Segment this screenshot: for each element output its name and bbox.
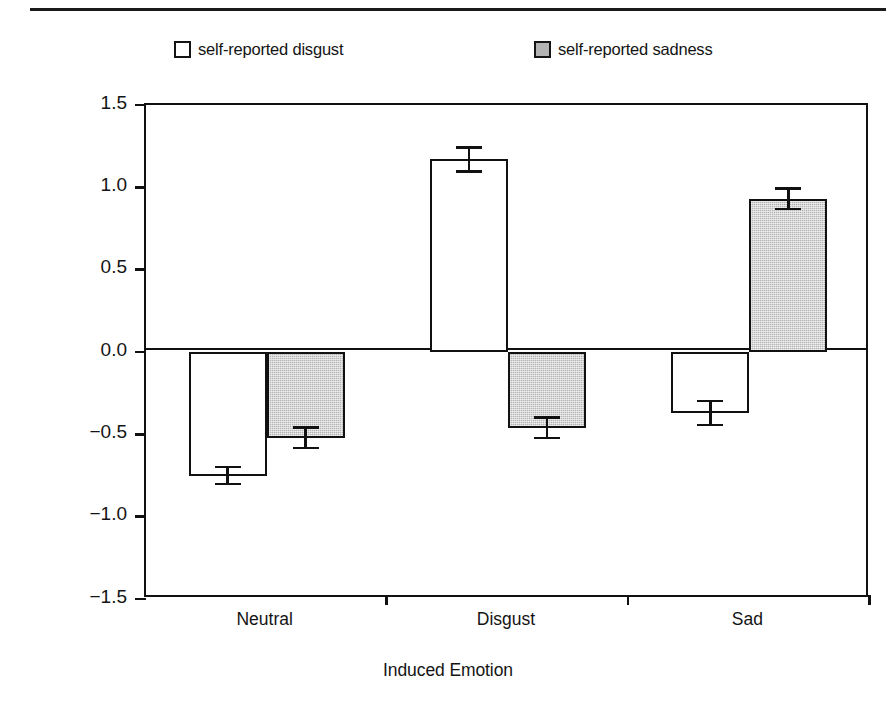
error-bar-cap-bottom — [697, 424, 723, 427]
y-tick: 0.0 — [135, 351, 146, 354]
error-bar-cap-top — [697, 400, 723, 403]
x-tick — [385, 595, 388, 605]
bar — [430, 159, 508, 352]
error-bar-cap-top — [293, 426, 319, 429]
error-bar-stem — [468, 146, 471, 172]
y-tick: −0.5 — [135, 433, 146, 436]
y-tick-label: −1.0 — [89, 504, 127, 524]
error-bar-cap-top — [534, 416, 560, 419]
y-tick: −1.0 — [135, 515, 146, 518]
x-category-label: Neutral — [236, 609, 292, 630]
y-tick: 1.5 — [135, 104, 146, 107]
x-category-label: Sad — [732, 609, 763, 630]
y-tick-label: 1.0 — [101, 175, 127, 195]
error-bar-cap-top — [215, 466, 241, 469]
x-category-label: Disgust — [477, 609, 535, 630]
y-tick: 0.5 — [135, 268, 146, 271]
y-tick-label: 0.0 — [101, 340, 127, 360]
plot-area: 1.51.00.50.0−0.5−1.0−1.5 — [144, 103, 868, 597]
bar — [189, 352, 267, 476]
legend-entry-disgust: self-reported disgust — [174, 40, 343, 59]
bar — [267, 352, 345, 438]
error-bar-stem — [709, 400, 712, 426]
legend-entry-sadness: self-reported sadness — [534, 40, 712, 59]
error-bar-cap-bottom — [293, 447, 319, 450]
y-tick-label: −0.5 — [89, 422, 127, 442]
top-rule — [30, 8, 886, 11]
chart-legend: self-reported disgust self-reported sadn… — [144, 40, 868, 70]
legend-label-sadness: self-reported sadness — [558, 40, 712, 59]
legend-swatch-sadness — [534, 41, 551, 58]
error-bar-cap-top — [775, 187, 801, 190]
x-axis-title: Induced Emotion — [0, 660, 896, 681]
error-bar-cap-bottom — [456, 170, 482, 173]
y-tick-label: 0.5 — [101, 257, 127, 277]
error-bar-cap-top — [456, 146, 482, 149]
legend-label-disgust: self-reported disgust — [198, 40, 343, 59]
y-tick-label: −1.5 — [89, 587, 127, 607]
y-tick: −1.5 — [135, 598, 146, 601]
error-bar-cap-bottom — [775, 208, 801, 211]
x-tick — [868, 595, 871, 605]
legend-swatch-disgust — [174, 41, 191, 58]
error-bar-cap-bottom — [215, 483, 241, 486]
y-tick-label: 1.5 — [101, 93, 127, 113]
error-bar-cap-bottom — [534, 437, 560, 440]
bar — [749, 199, 827, 352]
y-tick: 1.0 — [135, 186, 146, 189]
x-tick — [627, 595, 630, 605]
